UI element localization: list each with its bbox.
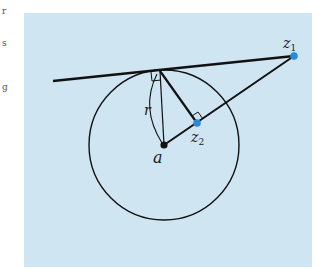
label-a: a <box>153 148 163 167</box>
label-z2: z2 <box>190 129 204 147</box>
point-z1 <box>290 52 298 60</box>
line-a-to-z1 <box>164 56 294 145</box>
perpendicular-segment <box>160 71 197 123</box>
tangent-line <box>53 56 294 81</box>
radius-line <box>160 71 164 145</box>
point-z2 <box>193 119 201 127</box>
label-z1: z1 <box>282 35 296 53</box>
geometry-diagram: r a z2 z1 <box>0 0 327 278</box>
